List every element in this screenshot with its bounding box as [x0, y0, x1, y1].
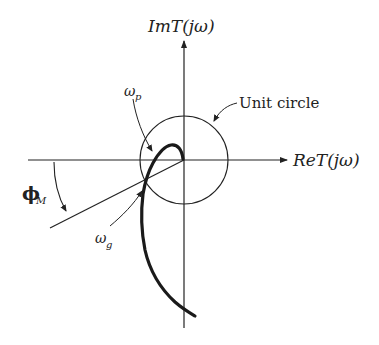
omega-g-label: ω g: [95, 230, 112, 250]
phase-margin-arc: [54, 162, 66, 211]
omega-p-pointer: [133, 99, 152, 151]
phase-margin-line: [50, 160, 184, 228]
omega-g-pointer: [110, 191, 142, 226]
phase-margin-label: ϕ M: [22, 182, 47, 206]
svg-text:p: p: [135, 91, 142, 102]
unit-circle-pointer: [214, 103, 237, 121]
real-axis-label: ReT(jω): [292, 150, 360, 170]
nyquist-diagram: ImT(jω) ReT(jω) Unit circle ω p ω g ϕ M: [0, 0, 379, 345]
svg-text:M: M: [35, 195, 47, 206]
nyquist-curve: [142, 145, 195, 316]
imaginary-axis-label: ImT(jω): [147, 16, 215, 36]
svg-text:g: g: [106, 239, 112, 250]
unit-circle-label: Unit circle: [239, 94, 319, 112]
